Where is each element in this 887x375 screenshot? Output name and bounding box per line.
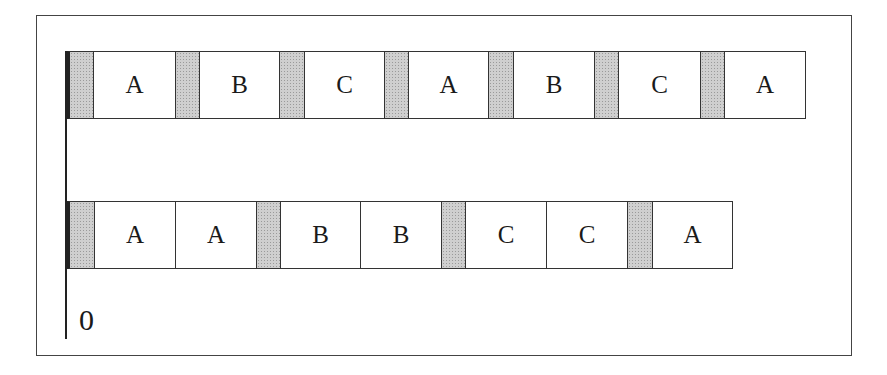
task-block-b: B <box>280 201 361 269</box>
switch-gap-block <box>488 51 514 119</box>
switch-gap-block <box>67 51 94 119</box>
task-block-b: B <box>199 51 280 119</box>
task-block-a: A <box>408 51 489 119</box>
switch-gap-block <box>256 201 281 269</box>
task-block-a: A <box>724 51 806 119</box>
switch-gap-block <box>627 201 653 269</box>
task-block-a: A <box>94 201 176 269</box>
switch-gap-block <box>594 51 619 119</box>
task-block-c: C <box>546 201 628 269</box>
switch-gap-block <box>700 51 725 119</box>
switch-gap-block <box>67 201 95 269</box>
task-block-b: B <box>360 201 442 269</box>
switch-gap-block <box>175 51 200 119</box>
task-block-c: C <box>465 201 547 269</box>
task-block-a: A <box>93 51 176 119</box>
switch-gap-block <box>384 51 409 119</box>
task-block-a: A <box>652 201 733 269</box>
switch-gap-block <box>279 51 305 119</box>
task-block-b: B <box>513 51 595 119</box>
task-block-a: A <box>175 201 257 269</box>
switch-gap-block <box>441 201 466 269</box>
row-grouped-schedule: AABBCCA <box>67 201 732 269</box>
task-block-c: C <box>304 51 385 119</box>
row-interleaved-schedule: ABCABCA <box>67 51 805 119</box>
axis-origin-label: 0 <box>79 303 94 337</box>
task-block-c: C <box>618 51 701 119</box>
